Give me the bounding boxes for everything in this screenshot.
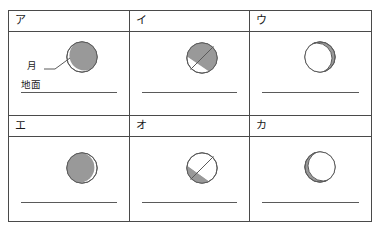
panel-e-label: エ: [15, 119, 27, 133]
panel-ka-label: カ: [256, 119, 268, 133]
panel-i-header: イ: [130, 11, 250, 32]
panel-u-label: ウ: [256, 14, 268, 28]
panel-grid-frame: ア: [8, 10, 372, 222]
panel-e[interactable]: エ: [9, 116, 130, 221]
ground-line-a: [21, 92, 117, 93]
panel-u-body: [250, 32, 371, 115]
panel-u-header: ウ: [250, 11, 371, 32]
panel-u[interactable]: ウ: [250, 11, 371, 116]
ground-line-u: [262, 92, 359, 93]
moon-icon-u: [303, 40, 337, 74]
ground-line-e: [21, 202, 117, 203]
panel-ka-header: カ: [250, 116, 371, 137]
ground-label-a: 地面: [21, 79, 41, 91]
ground-line-i: [142, 92, 238, 93]
panel-a-body: 月 地面: [9, 32, 129, 115]
panel-i-body: [130, 32, 250, 115]
panel-i[interactable]: イ: [130, 11, 251, 116]
panel-ka-body: [250, 137, 371, 221]
moon-icon-e: [65, 151, 99, 185]
moon-phase-figure: ア: [0, 0, 381, 228]
panel-ka[interactable]: カ: [250, 116, 371, 221]
moon-icon-ka: [303, 150, 337, 184]
panel-grid: ア: [9, 11, 371, 221]
panel-e-body: [9, 137, 129, 221]
panel-a-label: ア: [15, 14, 27, 28]
moon-callout-label: 月: [27, 60, 37, 72]
panel-o-body: [130, 137, 250, 221]
panel-o-label: オ: [136, 119, 148, 133]
ground-line-o: [142, 202, 238, 203]
panel-o[interactable]: オ: [130, 116, 251, 221]
moon-icon-i: [185, 41, 219, 75]
panel-i-label: イ: [136, 14, 148, 28]
moon-icon-o: [185, 151, 219, 185]
panel-o-header: オ: [130, 116, 250, 137]
panel-a[interactable]: ア: [9, 11, 130, 116]
ground-line-ka: [262, 202, 359, 203]
moon-callout-leader-icon: [43, 56, 73, 72]
panel-e-header: エ: [9, 116, 129, 137]
panel-a-header: ア: [9, 11, 129, 32]
